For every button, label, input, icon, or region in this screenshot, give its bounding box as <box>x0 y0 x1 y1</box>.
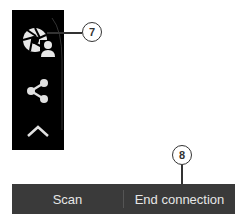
end-connection-button[interactable]: End connection <box>124 184 235 214</box>
callout-7-leader-line <box>47 32 82 34</box>
scan-button[interactable]: Scan <box>12 184 123 214</box>
share-icon[interactable] <box>25 78 51 104</box>
camera-user-icon[interactable] <box>18 20 58 60</box>
chevron-up-icon[interactable] <box>25 123 51 139</box>
bottom-action-bar: Scan End connection <box>12 184 235 214</box>
callout-8-leader-line <box>181 165 183 184</box>
callout-8: 8 <box>172 145 192 165</box>
callout-7: 7 <box>82 22 102 42</box>
side-toolbar <box>12 10 64 150</box>
